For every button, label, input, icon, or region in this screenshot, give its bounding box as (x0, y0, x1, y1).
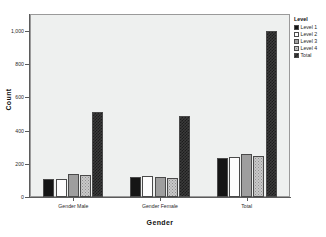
x-axis-tick-label: Gender Female (117, 203, 204, 210)
y-axis-tick-label: 1,000 (0, 28, 24, 34)
y-axis-tick (25, 97, 30, 98)
legend: Level Level 1Level 2Level 3Level 4Total (291, 14, 326, 59)
legend-swatch-icon (294, 39, 299, 44)
y-axis-tick-label: 200 (0, 161, 24, 167)
legend-item: Level 2 (294, 31, 326, 37)
bar (92, 112, 103, 197)
legend-item-label: Level 1 (301, 24, 318, 30)
legend-title: Level (294, 16, 326, 23)
bar (229, 157, 240, 197)
bar (241, 154, 252, 197)
bar (253, 156, 264, 197)
x-axis-title: Gender (30, 219, 290, 226)
bar (130, 177, 141, 197)
x-axis-tick (73, 197, 74, 201)
legend-item: Total (294, 52, 326, 58)
legend-swatch-icon (294, 32, 299, 37)
bar (43, 179, 54, 197)
y-axis-title: Count (5, 72, 12, 128)
x-axis-tick (247, 197, 248, 201)
y-axis-tick-label: 400 (0, 128, 24, 134)
bar (266, 31, 277, 197)
legend-item-label: Level 3 (301, 38, 318, 44)
y-axis-tick (25, 31, 30, 32)
legend-item-label: Level 2 (301, 31, 318, 37)
y-axis-tick (25, 64, 30, 65)
y-axis-tick (25, 197, 30, 198)
y-axis-tick (25, 131, 30, 132)
legend-swatch-icon (294, 53, 299, 58)
bar (179, 116, 190, 197)
legend-item: Level 3 (294, 38, 326, 44)
bar-chart: 02004006008001,000 Gender MaleGender Fem… (0, 0, 326, 237)
bar (68, 174, 79, 197)
y-axis-tick-label: 800 (0, 61, 24, 67)
x-axis-tick-label: Total (203, 203, 290, 210)
x-axis-tick (160, 197, 161, 201)
bar (56, 179, 67, 197)
legend-item: Level 4 (294, 45, 326, 51)
legend-item: Level 1 (294, 24, 326, 30)
bar (142, 176, 153, 197)
y-axis-line (29, 14, 30, 198)
y-axis-tick (25, 164, 30, 165)
bar (155, 177, 166, 197)
x-axis-tick-label: Gender Male (30, 203, 117, 210)
bar (80, 175, 91, 197)
bar (217, 158, 228, 197)
y-axis-tick-label: 0 (0, 194, 24, 200)
legend-items: Level 1Level 2Level 3Level 4Total (291, 24, 326, 58)
legend-item-label: Total (301, 52, 312, 58)
legend-swatch-icon (294, 46, 299, 51)
legend-item-label: Level 4 (301, 45, 318, 51)
legend-swatch-icon (294, 25, 299, 30)
bar (167, 178, 178, 197)
